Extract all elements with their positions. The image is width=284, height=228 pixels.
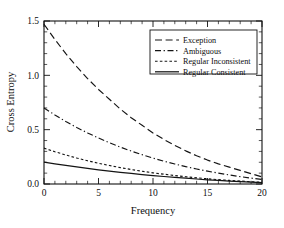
chart-legend: ExceptionAmbiguousRegular InconsistentRe… [150, 30, 257, 77]
y-tick-label: 0.0 [27, 179, 39, 189]
y-tick-label: 1.5 [27, 16, 39, 26]
x-tick-label: 0 [42, 188, 47, 198]
x-tick-label: 20 [257, 188, 267, 198]
x-tick-label: 15 [203, 188, 213, 198]
legend-label-ambiguous: Ambiguous [183, 47, 221, 56]
x-axis-title: Frequency [131, 205, 176, 216]
legend-label-regular-inconsistent: Regular Inconsistent [183, 57, 251, 66]
x-tick-label: 10 [148, 188, 158, 198]
x-tick-labels: 05101520 [42, 188, 267, 198]
y-tick-labels: 0.00.51.01.5 [27, 16, 39, 189]
legend-label-exception: Exception [183, 36, 216, 45]
cross-entropy-line-chart: 05101520 0.00.51.01.5 Frequency Cross En… [0, 0, 284, 228]
y-axis-title: Cross Entropy [5, 71, 16, 132]
legend-label-regular-consistent: Regular Consistent [183, 68, 246, 77]
chart-figure: 05101520 0.00.51.01.5 Frequency Cross En… [0, 0, 284, 228]
y-tick-label: 0.5 [27, 125, 39, 135]
x-tick-label: 5 [96, 188, 101, 198]
y-tick-label: 1.0 [27, 71, 39, 81]
